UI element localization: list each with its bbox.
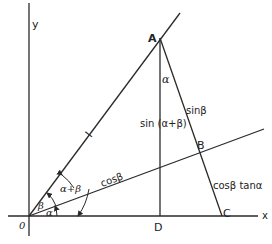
angle-alpha-O: α <box>46 207 53 218</box>
angle-alpha-A: α <box>162 73 170 86</box>
x-axis-label: x <box>262 210 268 221</box>
label-OB: cosβ <box>99 171 125 189</box>
point-D: D <box>154 221 162 234</box>
point-B: B <box>197 139 205 152</box>
origin-label: 0 <box>19 220 26 231</box>
label-OA: l <box>83 130 95 140</box>
point-C: C <box>223 207 231 220</box>
label-AB: sinβ <box>186 105 207 116</box>
angle-beta-O: β <box>37 200 44 211</box>
label-AD: sin (α+β) <box>140 118 187 129</box>
arc-alpha <box>55 206 57 216</box>
trig-diagram: y x 0 A B C D l cosβ sinβ sin (α+β) cosβ… <box>0 0 272 244</box>
y-axis-label: y <box>32 18 39 31</box>
line-OB <box>29 129 264 216</box>
label-BC: cosβ tanα <box>213 180 263 191</box>
arc-beta <box>47 193 56 206</box>
angle-alpha-plus-beta: α+β <box>60 183 81 194</box>
point-A: A <box>148 32 157 45</box>
